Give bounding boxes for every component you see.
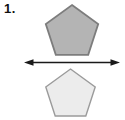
top-pentagon-shape: [46, 5, 98, 55]
arrowhead-right-icon: [111, 59, 121, 66]
reflection-diagram: [0, 0, 125, 120]
bottom-pentagon-shape: [46, 69, 95, 116]
arrowhead-left-icon: [24, 59, 34, 66]
worksheet-figure: 1.: [0, 0, 125, 120]
